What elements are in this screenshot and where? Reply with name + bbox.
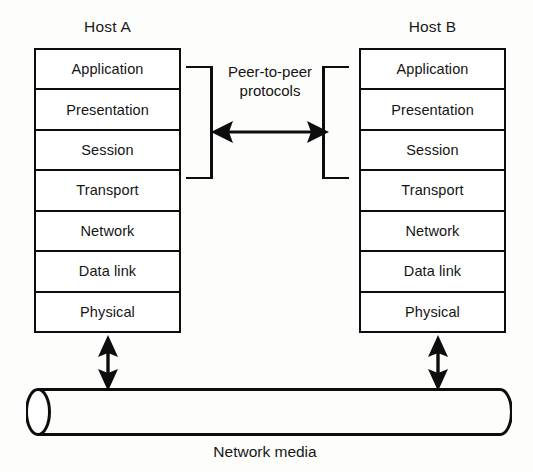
- layer-presentation: Presentation: [36, 90, 179, 130]
- double-headed-horizontal-arrow-icon: [211, 118, 329, 146]
- layer-application: Application: [36, 50, 179, 90]
- layer-transport: Transport: [361, 171, 504, 211]
- host-b-title: Host B: [359, 18, 506, 36]
- peer-caption-line-1: Peer-to-peer: [205, 62, 335, 81]
- host-a-layer-stack: Application Presentation Session Transpo…: [34, 48, 181, 333]
- layer-session: Session: [361, 131, 504, 171]
- double-headed-vertical-arrow-icon: [94, 335, 122, 391]
- peer-caption-line-2: protocols: [205, 81, 335, 100]
- host-a-title: Host A: [34, 18, 181, 36]
- layer-network: Network: [361, 212, 504, 252]
- osi-peer-to-peer-diagram: Host A Host B Application Presentation S…: [0, 0, 533, 472]
- layer-application: Application: [361, 50, 504, 90]
- double-headed-vertical-arrow-icon: [424, 335, 452, 391]
- layer-transport: Transport: [36, 171, 179, 211]
- host-b-layer-stack: Application Presentation Session Transpo…: [359, 48, 506, 333]
- layer-data-link: Data link: [361, 252, 504, 292]
- layer-data-link: Data link: [36, 252, 179, 292]
- layer-physical: Physical: [361, 293, 504, 331]
- layer-presentation: Presentation: [361, 90, 504, 130]
- layer-session: Session: [36, 131, 179, 171]
- layer-network: Network: [36, 212, 179, 252]
- network-media-cylinder: [26, 386, 512, 438]
- peer-to-peer-caption: Peer-to-peer protocols: [205, 62, 335, 100]
- network-media-label: Network media: [145, 443, 385, 461]
- layer-physical: Physical: [36, 293, 179, 331]
